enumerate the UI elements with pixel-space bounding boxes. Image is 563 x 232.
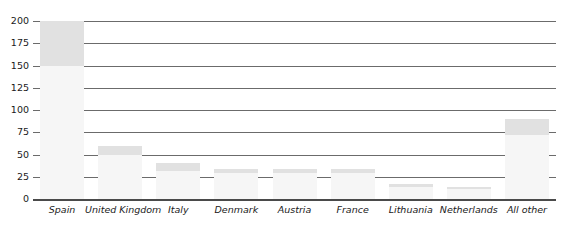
y-axis-tick-label: 125 xyxy=(3,83,29,93)
x-axis-category-labels: SpainUnited KingdomItalyDenmarkAustriaFr… xyxy=(33,205,556,227)
bars-layer xyxy=(33,21,556,199)
y-axis-tick-label: 150 xyxy=(3,61,29,71)
x-axis-label: All other xyxy=(492,205,562,215)
bar xyxy=(389,184,433,199)
bar xyxy=(40,21,84,199)
bar-body xyxy=(331,169,375,199)
bar xyxy=(273,169,317,199)
bar xyxy=(447,187,491,199)
bar xyxy=(331,169,375,199)
y-axis-tick-label: 200 xyxy=(3,16,29,26)
bar-body xyxy=(273,169,317,199)
bar xyxy=(214,169,258,199)
bar xyxy=(505,119,549,199)
y-axis-tick-label: 0 xyxy=(3,194,29,204)
bar-body xyxy=(214,169,258,199)
axis-baseline xyxy=(33,199,556,201)
y-axis-tick-label: 75 xyxy=(3,127,29,137)
bar xyxy=(98,146,142,199)
bar-chart: 0255075100125150175200 SpainUnited Kingd… xyxy=(0,0,563,232)
bar-top-segment xyxy=(40,21,84,66)
y-axis-tick-label: 50 xyxy=(3,150,29,160)
bar-top-segment xyxy=(447,187,491,190)
bar-top-segment xyxy=(98,146,142,155)
y-axis-tick-label: 25 xyxy=(3,172,29,182)
bar-top-segment xyxy=(331,169,375,173)
y-axis-tick-label: 175 xyxy=(3,38,29,48)
bar-top-segment xyxy=(214,169,258,173)
bar-top-segment xyxy=(389,184,433,187)
y-axis-tick-labels: 0255075100125150175200 xyxy=(0,21,29,199)
bar-top-segment xyxy=(273,169,317,173)
bar xyxy=(156,163,200,199)
y-axis-tick-label: 100 xyxy=(3,105,29,115)
bar-top-segment xyxy=(156,163,200,170)
bar-top-segment xyxy=(505,119,549,135)
